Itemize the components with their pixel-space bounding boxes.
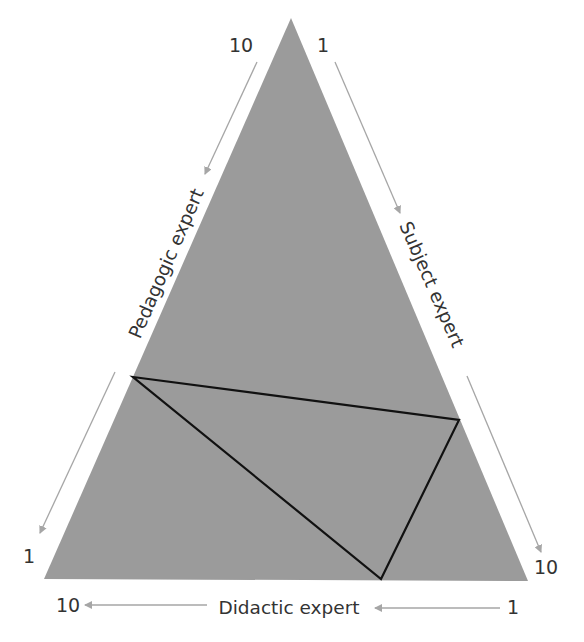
expert-triangle-diagram: 10 1 1 10 10 1 Pedagogic expert Subject … [0,0,584,642]
outer-triangle [44,18,528,581]
right-top-value: 1 [317,34,329,56]
right-bottom-value: 10 [534,556,558,578]
didactic-expert-label: Didactic expert [218,597,359,618]
left-bottom-value: 1 [23,545,35,567]
left-top-value: 10 [229,34,253,56]
bottom-right-value: 1 [507,596,519,618]
bottom-left-value: 10 [56,594,80,616]
